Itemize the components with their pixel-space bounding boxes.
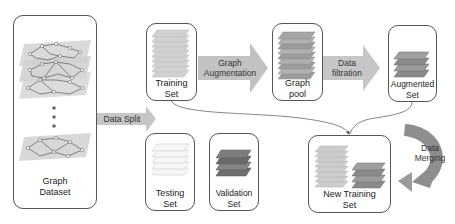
data-split-label: Data Split	[100, 114, 144, 124]
data-merging-arrowhead	[398, 172, 412, 192]
graph-augmentation-label: Graph Augmentation	[196, 58, 264, 78]
graph-pool-stack-icon	[278, 32, 315, 79]
training-to-new-connector	[171, 101, 349, 134]
augmented-to-new-connector	[350, 102, 412, 134]
validation-stack-icon	[216, 150, 251, 176]
new-training-light-stack-icon	[315, 146, 348, 187]
ellipsis-dot	[52, 124, 56, 128]
ellipsis-dot	[52, 115, 56, 119]
testing-stack-icon	[152, 144, 189, 175]
data-filtration-label: Data filtration	[322, 58, 372, 78]
graph-planes-icon	[19, 40, 91, 161]
augmented-stack-icon	[394, 52, 429, 77]
diagram-graphics	[0, 0, 455, 224]
ellipsis-dot	[52, 106, 56, 110]
training-stack-icon	[152, 30, 189, 77]
data-merging-label: Data Merging	[408, 143, 452, 163]
new-training-dark-stack-icon	[352, 163, 385, 188]
